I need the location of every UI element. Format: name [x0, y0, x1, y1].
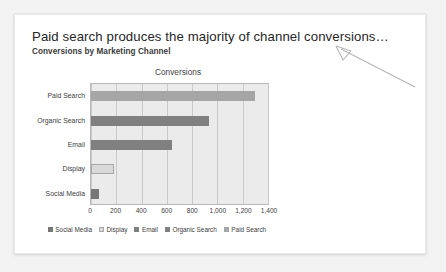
legend-item[interactable]: Paid Search — [224, 226, 266, 233]
page-subtitle: Conversions by Marketing Channel — [32, 47, 171, 56]
legend-label: Paid Search — [231, 226, 266, 233]
x-tick-label: 0 — [88, 207, 92, 214]
conversions-bar-chart: Conversions Paid SearchOrganic SearchEma… — [32, 65, 282, 237]
legend-item[interactable]: Social Media — [48, 226, 92, 233]
bar-display[interactable] — [91, 164, 114, 174]
page-title: Paid search produces the majority of cha… — [32, 29, 389, 44]
legend-item[interactable]: Display — [99, 226, 127, 233]
category-label: Social Media — [46, 189, 85, 196]
chart-legend: Social MediaDisplayEmailOrganic SearchPa… — [32, 223, 282, 235]
bar-social-media[interactable] — [91, 189, 99, 199]
x-tick-label: 1,200 — [235, 207, 252, 214]
bar-paid-search[interactable] — [91, 91, 255, 101]
x-tick-label: 1,000 — [210, 207, 227, 214]
legend-swatch-icon — [99, 227, 104, 232]
plot-wrapper: Paid SearchOrganic SearchEmailDisplaySoc… — [32, 83, 282, 205]
x-tick-label: 800 — [187, 207, 198, 214]
gridline — [268, 84, 269, 204]
x-tick-label: 600 — [161, 207, 172, 214]
bar-organic-search[interactable] — [91, 116, 209, 126]
category-label: Paid Search — [47, 92, 85, 99]
category-label: Display — [62, 165, 85, 172]
gridline — [192, 84, 193, 204]
category-label: Organic Search — [37, 116, 85, 123]
legend-swatch-icon — [165, 227, 170, 232]
legend-item[interactable]: Organic Search — [165, 226, 217, 233]
legend-label: Organic Search — [172, 226, 216, 233]
gridline — [243, 84, 244, 204]
x-tick-label: 200 — [110, 207, 121, 214]
slide-card: Paid search produces the majority of cha… — [14, 14, 426, 254]
bar-email[interactable] — [91, 140, 172, 150]
chart-title: Conversions — [32, 67, 282, 77]
legend-item[interactable]: Email — [134, 226, 157, 233]
legend-swatch-icon — [48, 227, 53, 232]
pointer-arrow-icon — [321, 41, 421, 91]
category-axis-labels: Paid SearchOrganic SearchEmailDisplaySoc… — [32, 83, 88, 205]
legend-swatch-icon — [134, 227, 139, 232]
x-tick-label: 400 — [136, 207, 147, 214]
category-label: Email — [68, 141, 85, 148]
value-axis-ticks: 02004006008001,0001,2001,400 — [90, 207, 269, 219]
legend-label: Social Media — [55, 226, 92, 233]
gridline — [217, 84, 218, 204]
plot-area — [90, 83, 269, 205]
x-tick-label: 1,400 — [261, 207, 278, 214]
legend-swatch-icon — [224, 227, 229, 232]
legend-label: Display — [106, 226, 127, 233]
legend-label: Email — [142, 226, 158, 233]
